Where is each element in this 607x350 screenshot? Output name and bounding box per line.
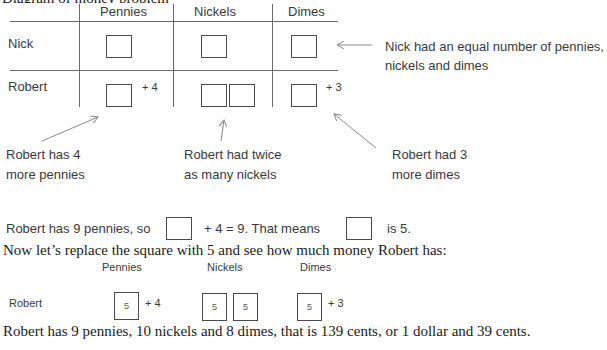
arrow-to-robert-dimes (334, 114, 376, 148)
nick-pennies-box (106, 35, 132, 58)
column-header-nickels: Nickels (194, 4, 236, 19)
robert-nickels-box-1 (201, 84, 227, 107)
arrow-to-robert-nickels (221, 120, 224, 141)
conclusion-sentence: Robert has 9 pennies, 10 nickels and 8 d… (3, 323, 530, 340)
solved-row-label: Robert (9, 297, 42, 309)
solved-header-nickels: Nickels (207, 261, 242, 273)
replace-sentence: Now let’s replace the square with 5 and … (3, 242, 447, 259)
solved-pennies-extra: + 4 (145, 297, 161, 309)
solved-pennies-box: 5 (114, 292, 139, 320)
table-header-rule (10, 21, 338, 22)
robert-pennies-extra: + 4 (142, 81, 158, 93)
annotation-nick-equal: Nick had an equal number of pennies, nic… (385, 37, 604, 75)
arrow-to-robert-pennies (42, 117, 98, 141)
table-col-rule-3 (272, 4, 273, 107)
solved-dimes-extra: + 3 (328, 297, 344, 309)
equation-part-2: + 4 = 9. That means (204, 221, 320, 236)
equation-box-2 (346, 217, 372, 240)
table-col-rule-2 (173, 4, 174, 107)
row-label-nick: Nick (8, 36, 33, 51)
annotation-robert-nickels: Robert had twice as many nickels (184, 145, 282, 185)
solved-dimes-box: 5 (297, 293, 322, 321)
row-label-robert: Robert (8, 79, 47, 94)
nick-dimes-box (291, 35, 317, 58)
robert-nickels-box-2 (229, 84, 255, 107)
annotation-robert-pennies: Robert has 4 more pennies (6, 145, 85, 185)
equation-box-1 (166, 217, 192, 240)
column-header-pennies: Pennies (100, 4, 147, 19)
equation-part-1: Robert has 9 pennies, so (6, 221, 151, 236)
robert-dimes-extra: + 3 (326, 81, 342, 93)
equation-part-3: is 5. (387, 221, 411, 236)
table-col-rule-1 (79, 4, 80, 107)
annotation-robert-dimes: Robert had 3 more dimes (392, 145, 467, 185)
nick-nickels-box (201, 35, 227, 58)
solved-header-dimes: Dimes (300, 261, 331, 273)
robert-dimes-box (291, 84, 317, 107)
solved-nickels-box-1: 5 (202, 293, 227, 321)
cropped-heading: Diagram of money problem (0, 0, 169, 3)
robert-pennies-box (106, 84, 132, 107)
column-header-dimes: Dimes (288, 4, 325, 19)
table-row-rule (10, 70, 338, 71)
solved-nickels-box-2: 5 (233, 293, 258, 321)
solved-header-pennies: Pennies (102, 261, 142, 273)
